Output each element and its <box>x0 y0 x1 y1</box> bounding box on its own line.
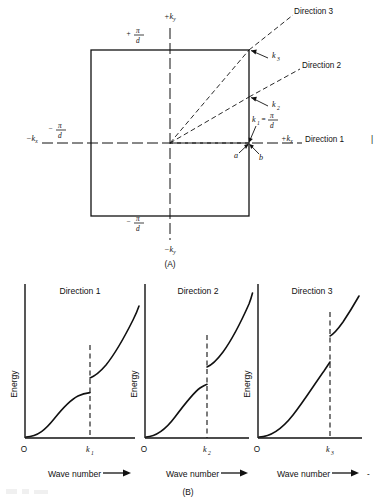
direction-1-trailing-mark: | <box>371 135 373 144</box>
panel-1-x-arrowhead <box>123 470 131 477</box>
svg-text:π: π <box>58 121 62 130</box>
brillouin-zone-diagram: +ky −ky +kx −kx + π d − π d − π <box>0 0 377 272</box>
left-boundary-label: − π d <box>48 121 66 140</box>
dispersion-panel-3: Direction 3 Energy O k 3 Wave number - <box>242 284 370 479</box>
svg-text:d: d <box>58 131 62 140</box>
svg-text:d: d <box>136 36 140 45</box>
dispersion-panels: Direction 1 Energy O k 1 Wave number Dir… <box>0 272 377 500</box>
svg-text:−: − <box>48 124 53 133</box>
panel-1-lower-band <box>26 393 90 437</box>
panel-3-trailing-mark: - <box>367 470 370 479</box>
svg-text:k: k <box>326 445 330 454</box>
bottom-boundary-label: − π d <box>126 214 144 233</box>
panel-2-y-label: Energy <box>129 370 139 398</box>
top-boundary-label: + π d <box>126 26 144 45</box>
direction-3-leader <box>249 15 293 50</box>
dispersion-panel-2: Direction 2 Energy O k 2 Wave number <box>129 284 253 479</box>
svg-text:π: π <box>136 214 140 223</box>
dispersion-panel-1: Direction 1 Energy O k 1 Wave number <box>9 284 139 479</box>
svg-text:3: 3 <box>330 450 334 456</box>
k3-arrowhead <box>251 50 257 55</box>
svg-text:k: k <box>203 445 207 454</box>
panel-2-x-arrowhead <box>240 470 248 477</box>
panel-3-x-arrowhead <box>351 470 359 477</box>
svg-text:2: 2 <box>208 450 211 456</box>
panel-3-k-tick-label: k 3 <box>326 445 334 456</box>
scan-artifact <box>22 489 29 494</box>
panel-1-k-tick-label: k 1 <box>86 445 94 456</box>
panel-2-title: Direction 2 <box>177 286 218 296</box>
panel-2-x-label: Wave number <box>166 469 219 479</box>
panel-3-lower-band <box>259 362 330 437</box>
svg-text:1: 1 <box>257 120 260 126</box>
panel-2-lower-band <box>146 384 207 437</box>
svg-text:1: 1 <box>91 450 94 456</box>
panel-1-y-label: Energy <box>9 370 19 398</box>
section-a-caption: (A) <box>164 259 175 269</box>
panel-3-title: Direction 3 <box>291 286 332 296</box>
neg-kx-label: −kx <box>26 134 38 144</box>
panel-2-k-tick-label: k 2 <box>203 445 211 456</box>
panel-3-y-label: Energy <box>242 370 252 398</box>
direction-3-line <box>170 50 249 143</box>
svg-text:=: = <box>261 115 266 124</box>
neg-ky-label: −ky <box>164 245 176 255</box>
panel-2-origin-label: O <box>141 445 147 454</box>
point-b-label: b <box>259 153 263 162</box>
svg-text:k: k <box>252 115 256 124</box>
k3-label: k 3 <box>272 51 280 62</box>
panel-1-origin-label: O <box>21 445 27 454</box>
panel-2-upper-band <box>207 293 253 367</box>
scan-artifact <box>6 489 17 494</box>
figure-root: +ky −ky +kx −kx + π d − π d − π <box>0 0 377 500</box>
svg-text:k: k <box>86 445 90 454</box>
direction-3-label: Direction 3 <box>294 7 334 16</box>
svg-text:d: d <box>136 224 140 233</box>
svg-text:2: 2 <box>277 105 280 111</box>
panel-3-x-label: Wave number <box>277 469 330 479</box>
scan-artifact <box>34 490 48 494</box>
panel-1-title: Direction 1 <box>59 286 100 296</box>
a-arrowhead <box>244 144 249 149</box>
svg-text:k: k <box>272 51 276 60</box>
panel-3-origin-label: O <box>254 445 260 454</box>
panel-1-x-label: Wave number <box>48 469 101 479</box>
svg-text:π: π <box>270 111 274 120</box>
direction-2-label: Direction 2 <box>302 61 342 70</box>
panel-3-upper-band <box>330 296 359 336</box>
point-a-label: a <box>234 151 238 160</box>
pos-ky-label: +ky <box>164 12 176 22</box>
section-b-caption: (B) <box>182 487 193 497</box>
svg-text:d: d <box>270 121 274 130</box>
direction-1-label: Direction 1 <box>305 135 345 144</box>
svg-text:−: − <box>126 217 131 226</box>
panel-1-upper-band <box>90 306 139 378</box>
svg-text:π: π <box>136 26 140 35</box>
svg-text:3: 3 <box>276 56 280 62</box>
direction-2-leader <box>249 69 300 97</box>
pos-kx-label: +kx <box>281 134 293 144</box>
svg-text:k: k <box>272 100 276 109</box>
direction-2-line <box>170 97 249 143</box>
k2-label: k 2 <box>272 100 280 111</box>
k2-arrowhead <box>251 97 257 102</box>
svg-text:+: + <box>126 29 131 38</box>
